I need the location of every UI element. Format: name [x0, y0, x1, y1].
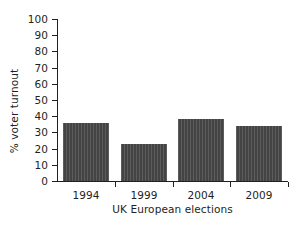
y-tick-30: [52, 132, 57, 133]
x-tick-2: [173, 182, 174, 187]
y-tick-20: [52, 149, 57, 150]
y-tick-10: [52, 165, 57, 166]
y-tick-80: [52, 51, 57, 52]
y-tick-label-30: 30: [8, 127, 48, 138]
bar-2009: [236, 126, 282, 181]
x-tick-1: [115, 182, 116, 187]
x-tick-label-1999: 1999: [117, 189, 171, 201]
x-tick-label-2009: 2009: [232, 189, 286, 201]
y-tick-60: [52, 84, 57, 85]
y-tick-70: [52, 68, 57, 69]
y-tick-label-0: 0: [8, 176, 48, 187]
y-tick-label-50: 50: [8, 95, 48, 106]
bar-chart: % voter turnout 0102030405060708090100 1…: [0, 0, 296, 226]
bar-1994: [63, 123, 109, 181]
y-tick-label-80: 80: [8, 46, 48, 57]
y-tick-90: [52, 35, 57, 36]
x-tick-label-2004: 2004: [174, 189, 228, 201]
y-tick-label-40: 40: [8, 111, 48, 122]
y-tick-label-100: 100: [8, 14, 48, 25]
x-axis-title: UK European elections: [57, 203, 288, 215]
y-tick-100: [52, 19, 57, 20]
bar-1999: [121, 144, 167, 181]
y-tick-50: [52, 100, 57, 101]
bar-2004: [178, 119, 224, 181]
y-tick-0: [52, 181, 57, 182]
x-tick-label-1994: 1994: [59, 189, 113, 201]
y-tick-40: [52, 116, 57, 117]
y-tick-label-10: 10: [8, 160, 48, 171]
y-tick-label-20: 20: [8, 144, 48, 155]
x-tick-4: [288, 182, 289, 187]
y-axis-line: [57, 19, 58, 182]
y-tick-label-70: 70: [8, 63, 48, 74]
x-tick-3: [230, 182, 231, 187]
y-tick-label-60: 60: [8, 79, 48, 90]
y-tick-label-90: 90: [8, 30, 48, 41]
